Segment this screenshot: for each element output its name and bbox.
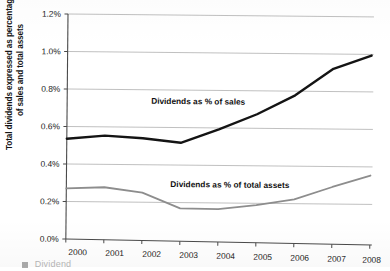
- caption-text: Dividend: [35, 259, 72, 269]
- gridline-1.2: [68, 14, 374, 17]
- gridline-0.8: [67, 89, 373, 92]
- x-tick-label: 2007: [327, 254, 346, 264]
- annotation-dividends-sales: Dividends as % of sales: [151, 96, 246, 107]
- gridline-1.0: [68, 51, 374, 54]
- annotation-dividends-total-assets: Dividends as % of total assets: [170, 179, 289, 190]
- y-tick-label: 1.2%: [42, 9, 62, 19]
- y-tick-label: 0.0%: [40, 234, 60, 244]
- y-tick-label: 0.8%: [41, 84, 61, 94]
- x-tick-label: 2002: [142, 249, 161, 259]
- figure-caption: Dividend: [4, 259, 304, 271]
- gridline-0.2: [66, 201, 372, 204]
- y-tick-label: 0.4%: [40, 159, 60, 169]
- caption-marker-icon: [22, 262, 28, 268]
- y-tick-label: 0.2%: [40, 196, 60, 206]
- series-line-dividends-total-assets: [66, 173, 370, 211]
- x-tick-label: 2001: [105, 248, 124, 258]
- y-tick-label: 0.6%: [41, 121, 61, 131]
- gridline-0.4: [67, 164, 373, 167]
- y-tick-label: 1.0%: [41, 46, 61, 56]
- x-tick-label: 2008: [362, 255, 381, 265]
- y-axis-tick-labels: 1.2% 1.0% 0.8% 0.6% 0.4% 0.2% 0.0%: [40, 9, 62, 244]
- x-axis-line: [66, 239, 372, 245]
- x-tick-label: 2000: [68, 247, 87, 257]
- gridlines: [66, 14, 374, 204]
